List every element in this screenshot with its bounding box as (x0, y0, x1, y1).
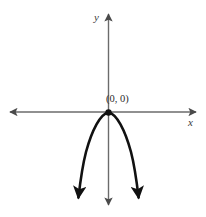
y-axis-label: y (94, 12, 99, 23)
graph-figure: y x (0, 0) (0, 0, 206, 217)
coordinate-plane-svg (0, 0, 206, 217)
vertex-coordinate-label: (0, 0) (106, 94, 129, 105)
parabola-right-arm (109, 113, 139, 198)
x-axis-label: x (188, 117, 193, 128)
parabola-left-arm (78, 113, 108, 198)
vertex-point-dot (105, 109, 111, 115)
